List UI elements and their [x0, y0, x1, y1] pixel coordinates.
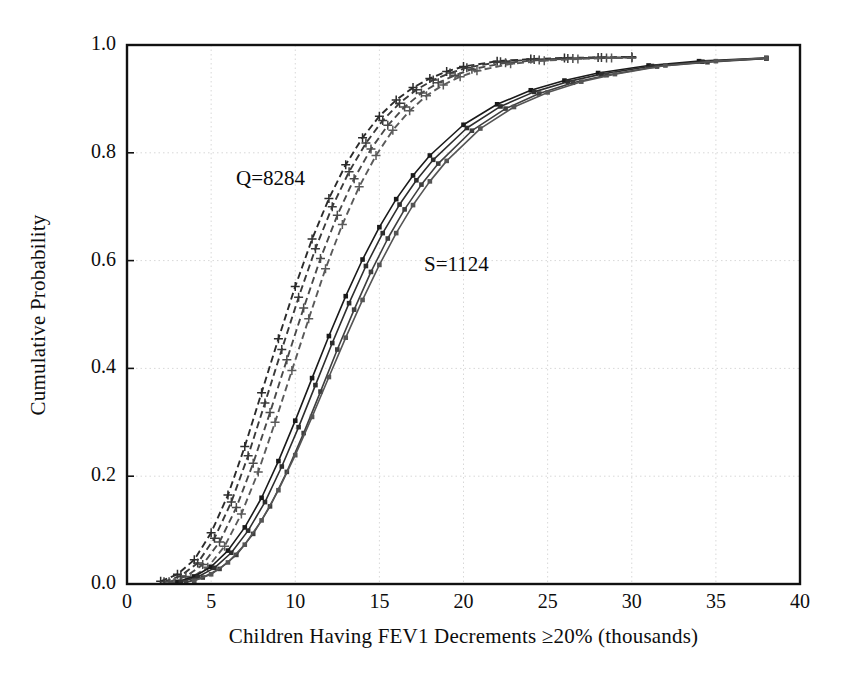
- data-point-marker: [240, 442, 249, 451]
- x-tick-label: 5: [181, 590, 241, 613]
- data-point-marker: [229, 550, 234, 555]
- x-axis-label: Children Having FEV1 Decrements ≥20% (th…: [127, 624, 800, 649]
- data-point-marker: [607, 53, 616, 62]
- data-point-marker: [282, 355, 291, 364]
- data-point-marker: [411, 173, 416, 178]
- data-point-marker: [313, 383, 318, 388]
- data-point-marker: [244, 451, 253, 460]
- data-point-marker: [310, 415, 315, 420]
- data-point-marker: [364, 264, 369, 269]
- cdf-chart-figure: 0510152025303540 0.00.20.40.60.81.0 Cumu…: [0, 0, 842, 680]
- data-point-marker: [296, 425, 301, 430]
- data-point-marker: [419, 182, 424, 187]
- data-point-marker: [501, 58, 510, 67]
- data-point-marker: [263, 500, 268, 505]
- data-point-marker: [209, 572, 214, 577]
- x-tick-label: 20: [434, 590, 494, 613]
- data-point-marker: [293, 453, 298, 458]
- x-tick-label: 15: [349, 590, 409, 613]
- x-tick-label: 25: [518, 590, 578, 613]
- data-point-marker: [343, 335, 348, 340]
- data-point-marker: [333, 211, 342, 220]
- data-point-marker: [613, 72, 618, 77]
- data-point-marker: [350, 174, 359, 183]
- data-point-marker: [627, 53, 636, 62]
- data-point-marker: [573, 55, 582, 64]
- series-line: [194, 58, 766, 581]
- series-line: [181, 58, 767, 581]
- series-line: [164, 57, 632, 581]
- series-q-2: [160, 53, 637, 586]
- data-point-marker: [246, 528, 251, 533]
- data-point-marker: [428, 179, 433, 184]
- data-point-marker: [257, 388, 266, 397]
- data-point-marker: [242, 542, 247, 547]
- data-point-marker: [276, 459, 281, 464]
- data-point-marker: [352, 307, 357, 312]
- data-point-marker: [503, 106, 508, 111]
- data-point-marker: [385, 236, 390, 241]
- data-point-marker: [436, 161, 441, 166]
- data-point-marker: [498, 104, 503, 109]
- data-point-marker: [380, 231, 385, 236]
- y-axis-label: Cumulative Probability: [18, 5, 58, 625]
- data-point-marker: [293, 418, 298, 423]
- data-point-marker: [343, 294, 348, 299]
- y-tick-label: 1.0: [56, 32, 116, 55]
- series-line: [186, 58, 766, 582]
- series-q-3: [165, 53, 637, 586]
- data-point-marker: [304, 314, 313, 323]
- data-point-marker: [330, 341, 335, 346]
- data-point-marker: [456, 72, 465, 81]
- data-point-marker: [328, 202, 337, 211]
- series-q-1: [156, 52, 636, 585]
- data-point-marker: [394, 197, 399, 202]
- data-point-marker: [366, 145, 375, 154]
- data-point-marker: [260, 398, 269, 407]
- data-series-layer: [156, 52, 769, 587]
- data-point-marker: [545, 90, 550, 95]
- data-point-marker: [254, 467, 263, 476]
- series-s-8: [192, 56, 769, 583]
- x-tick-label: 30: [602, 590, 662, 613]
- data-point-marker: [428, 153, 433, 158]
- data-point-marker: [308, 235, 317, 244]
- data-point-marker: [266, 408, 275, 417]
- data-point-marker: [279, 464, 284, 469]
- x-tick-label: 35: [686, 590, 746, 613]
- data-point-marker: [212, 566, 217, 571]
- data-point-marker: [321, 264, 330, 273]
- data-point-marker: [532, 90, 537, 95]
- data-point-marker: [259, 495, 264, 500]
- data-point-marker: [714, 59, 719, 64]
- data-point-marker: [192, 578, 197, 583]
- data-point-marker: [271, 418, 280, 427]
- annotation-q: Q=8284: [236, 166, 305, 191]
- data-point-marker: [259, 518, 264, 523]
- x-tick-label: 10: [265, 590, 325, 613]
- data-point-marker: [414, 178, 419, 183]
- data-point-marker: [338, 220, 347, 229]
- data-point-marker: [277, 345, 286, 354]
- data-point-marker: [512, 105, 517, 110]
- data-point-marker: [377, 225, 382, 230]
- x-tick-label: 40: [770, 590, 830, 613]
- data-point-marker: [478, 126, 483, 131]
- data-point-marker: [310, 376, 315, 381]
- data-point-marker: [347, 301, 352, 306]
- data-point-marker: [311, 244, 320, 253]
- data-point-marker: [397, 202, 402, 207]
- data-point-marker: [579, 79, 584, 84]
- data-point-marker: [465, 126, 470, 131]
- data-point-marker: [226, 560, 231, 565]
- series-s-7: [184, 56, 769, 585]
- y-tick-label: 0.2: [56, 463, 116, 486]
- data-point-marker: [276, 488, 281, 493]
- data-point-marker: [316, 254, 325, 263]
- data-point-marker: [274, 334, 283, 343]
- data-point-marker: [249, 459, 258, 468]
- data-point-marker: [299, 304, 308, 313]
- y-tick-label: 0.6: [56, 248, 116, 271]
- data-point-marker: [431, 158, 436, 163]
- y-tick-label: 0.4: [56, 355, 116, 378]
